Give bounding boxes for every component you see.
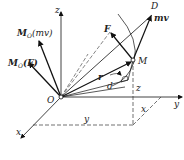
point-M-label: M xyxy=(137,56,148,66)
origin-label: O xyxy=(47,95,55,105)
dashed-od xyxy=(61,32,110,97)
moment-of-force-vector xyxy=(29,63,61,97)
dashed-x xyxy=(133,97,161,125)
y-dim-label: y xyxy=(83,114,90,124)
right-angle-mark xyxy=(121,76,128,82)
rotation-arc xyxy=(110,74,121,76)
trajectory-arc xyxy=(112,14,135,86)
x-dim-label: x xyxy=(141,104,146,114)
point-D-label: D xyxy=(150,1,158,11)
z-axis-label: z xyxy=(54,5,60,15)
point-M xyxy=(131,58,135,62)
x-axis xyxy=(21,97,61,138)
z-dim-label: z xyxy=(135,83,141,93)
position-label: r xyxy=(98,72,104,82)
distance-label: d xyxy=(107,81,113,91)
diagram-canvas: z y x O M D mv F r d z x y MO(mv) MO(F) xyxy=(0,0,184,160)
y-axis-label: y xyxy=(173,99,180,109)
force-vector-F xyxy=(111,33,133,60)
momentum-vector-mv xyxy=(133,16,151,60)
force-label: F xyxy=(103,24,111,34)
momentum-label: mv xyxy=(154,13,170,23)
moment-of-momentum-label: MO(mv) xyxy=(16,28,53,39)
moment-of-force-label: MO(F) xyxy=(7,58,38,69)
moment-of-momentum-vector xyxy=(39,41,61,97)
x-axis-label: x xyxy=(16,127,21,137)
line-o-plane xyxy=(61,80,128,97)
origin-point xyxy=(59,95,63,99)
